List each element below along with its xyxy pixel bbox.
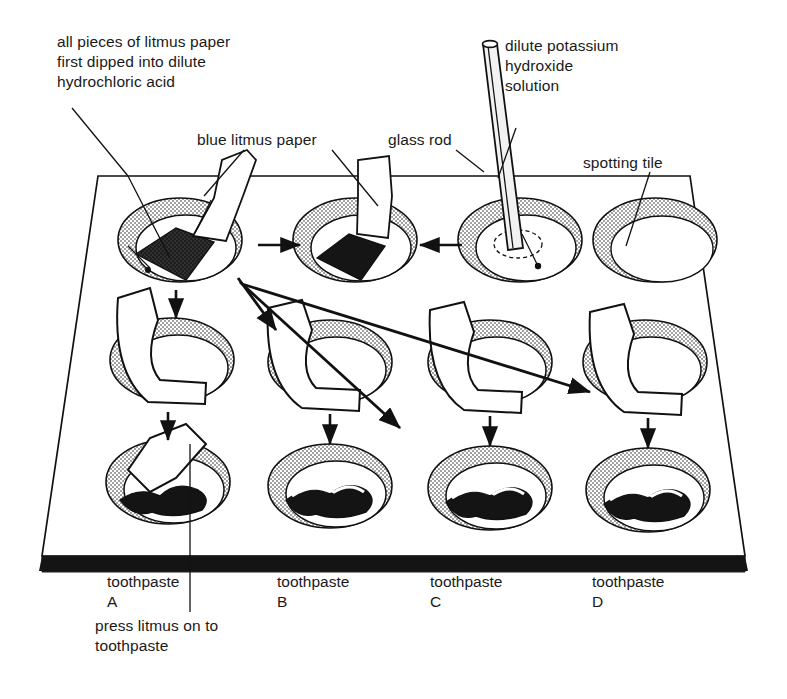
well-d3[interactable] [586,448,710,532]
diagram-canvas: all pieces of litmus paper first dipped … [0,0,787,699]
column-label-toothpaste-d: toothpaste D [592,572,664,612]
column-label-toothpaste-b: toothpaste B [277,572,349,612]
leader-acid-1 [72,108,128,176]
leader-glass-rod [456,150,484,172]
label-potassium-hydroxide: dilute potassium hydroxide solution [505,36,619,95]
well-d1[interactable] [593,198,717,282]
litmus-strip-b1[interactable] [357,156,392,238]
well-b3[interactable] [268,444,392,528]
column-label-toothpaste-c: toothpaste C [430,572,502,612]
well-c3[interactable] [428,446,552,530]
label-press-litmus-note: press litmus on to toothpaste [95,616,218,656]
well-b1[interactable] [293,198,417,282]
label-blue-litmus-paper: blue litmus paper [197,130,317,150]
label-glass-rod: glass rod [388,130,452,150]
label-acid-note: all pieces of litmus paper first dipped … [57,32,230,91]
label-spotting-tile: spotting tile [583,153,663,173]
column-label-toothpaste-a: toothpaste A [107,572,179,612]
